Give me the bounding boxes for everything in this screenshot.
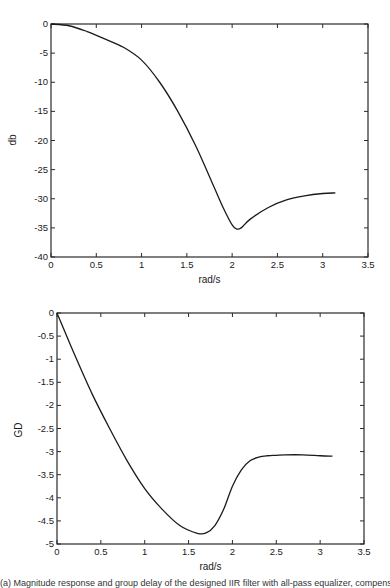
x-tick-label: 2.5: [271, 259, 284, 270]
y-tick-label: -2: [46, 399, 54, 410]
y-tick-label: -3.5: [38, 469, 54, 480]
y-tick-label: 0: [49, 307, 54, 318]
y-tick-label: -35: [34, 222, 48, 233]
x-tick-label: 3.5: [357, 546, 370, 557]
x-tick-label: 2: [230, 546, 235, 557]
data-line: [57, 313, 332, 534]
y-tick-label: -10: [34, 76, 48, 87]
y-tick-label: -1: [46, 353, 54, 364]
x-tick-label: 3: [317, 546, 322, 557]
y-tick-label: -1.5: [38, 376, 54, 387]
y-axis-label: db: [7, 134, 18, 146]
x-tick-label: 0.5: [90, 259, 103, 270]
y-tick-label: -20: [34, 135, 48, 146]
data-line: [51, 24, 335, 229]
x-tick-label: 0: [48, 259, 53, 270]
x-tick-label: 1: [142, 546, 147, 557]
y-tick-label: -30: [34, 193, 48, 204]
x-tick-label: 1.5: [180, 259, 193, 270]
figure-caption: (a) Magnitude response and group delay o…: [0, 578, 390, 588]
plot-magnitude: 00.511.522.533.50-5-10-15-20-25-30-35-40…: [7, 18, 375, 285]
axes-frame: [51, 24, 368, 257]
y-tick-label: -25: [34, 164, 48, 175]
y-tick-label: -5: [46, 538, 54, 549]
y-axis-label: GD: [13, 423, 24, 438]
y-tick-label: -15: [34, 105, 48, 116]
y-tick-label: -40: [34, 251, 48, 262]
y-tick-label: -5: [40, 47, 48, 58]
x-tick-label: 3.5: [361, 259, 374, 270]
plot-group-delay: 00.511.522.533.50-0.5-1-1.5-2-2.5-3-3.5-…: [13, 307, 371, 572]
axes-frame: [57, 313, 364, 544]
x-tick-label: 0.5: [94, 546, 107, 557]
y-tick-label: -3: [46, 446, 54, 457]
x-axis-label: rad/s: [199, 561, 221, 572]
y-tick-label: -0.5: [38, 330, 54, 341]
y-tick-label: -2.5: [38, 423, 54, 434]
x-axis-label: rad/s: [198, 274, 220, 285]
x-tick-label: 1: [139, 259, 144, 270]
y-tick-label: 0: [43, 18, 48, 29]
x-tick-label: 0: [54, 546, 59, 557]
x-tick-label: 1.5: [182, 546, 195, 557]
x-tick-label: 2.5: [270, 546, 283, 557]
y-tick-label: -4: [46, 492, 54, 503]
x-tick-label: 2: [229, 259, 234, 270]
y-tick-label: -4.5: [38, 515, 54, 526]
x-tick-label: 3: [320, 259, 325, 270]
